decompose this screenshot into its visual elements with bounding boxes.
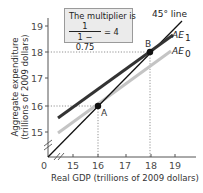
svg-text:AE: AE	[171, 46, 184, 56]
svg-text:1: 1	[185, 33, 191, 43]
x-tick-16: 16	[92, 160, 104, 171]
x-axis-label: Real GDP (trillions of 2009 dollars)	[51, 173, 199, 183]
y-tick-16: 16	[31, 101, 43, 112]
x-tick-18: 18	[145, 160, 157, 171]
svg-text:0: 0	[185, 49, 191, 59]
multiplier-result: = 4	[104, 27, 119, 37]
y-ticks: 19 18 17 16 15	[31, 21, 48, 138]
fraction-denominator: 1 − 0.75	[69, 31, 101, 52]
svg-text:AE: AE	[171, 30, 184, 40]
x-tick-15: 15	[67, 160, 79, 171]
multiplier-title: The multiplier is	[69, 11, 136, 21]
multiplier-fraction: 1 1 − 0.75	[69, 22, 101, 52]
multiplier-annotation-box: The multiplier is 1 1 − 0.75 = 4	[64, 8, 133, 43]
ae0-line	[58, 51, 171, 133]
y-tick-19: 19	[31, 21, 43, 32]
ae1-label: AE 1	[171, 30, 191, 43]
origin-label: 0	[41, 160, 47, 171]
fraction-numerator: 1	[69, 22, 101, 31]
point-b-label: B	[145, 39, 151, 49]
y-tick-17: 17	[31, 73, 43, 84]
y-axis-label: Aggregate expenditure (trillions of 2009…	[10, 34, 30, 139]
svg-text:(trillions of 2009 dollars): (trillions of 2009 dollars)	[20, 34, 30, 139]
x-tick-17: 17	[119, 160, 131, 171]
svg-text:Aggregate expenditure: Aggregate expenditure	[10, 37, 20, 136]
y-tick-18: 18	[31, 47, 43, 58]
point-b	[147, 49, 153, 55]
x-tick-19: 19	[169, 160, 181, 171]
45-degree-line-label: 45° line	[152, 9, 188, 19]
y-tick-15: 15	[31, 127, 43, 138]
ae0-label: AE 0	[171, 46, 191, 59]
point-a-label: A	[101, 108, 108, 118]
